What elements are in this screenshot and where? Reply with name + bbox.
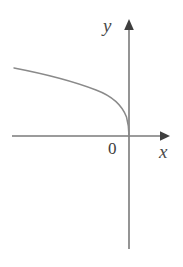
curve-sqrt-negative-x [14,68,129,136]
x-axis-arrow-icon [160,131,170,141]
x-axis-label: x [159,142,167,161]
y-axis-label: y [103,16,111,35]
coordinate-plot-svg [0,0,183,267]
y-axis-arrow-icon [124,19,134,30]
origin-label: 0 [108,140,117,157]
graph-figure: y x 0 [0,0,183,267]
